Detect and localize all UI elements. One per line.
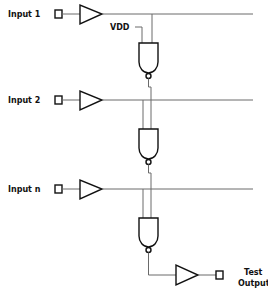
nand-gate-3 bbox=[139, 189, 176, 275]
input-row-n: Input n bbox=[8, 180, 253, 199]
input-n-buffer-icon bbox=[80, 180, 102, 199]
input-n-pad-icon bbox=[55, 185, 62, 193]
input-2-label: Input 2 bbox=[8, 96, 40, 105]
test-output-label-line2: Output bbox=[238, 279, 268, 288]
gate-2-output-wire bbox=[149, 165, 152, 219]
input-n-label: Input n bbox=[8, 185, 41, 194]
input-row-2: Input 2 bbox=[8, 91, 253, 110]
input-1-label: Input 1 bbox=[8, 10, 41, 19]
test-output: Test Output bbox=[176, 265, 268, 288]
output-buffer-icon bbox=[176, 265, 198, 285]
input-1-buffer-icon bbox=[80, 5, 102, 24]
vdd-wire bbox=[135, 27, 142, 43]
output-pad-icon bbox=[216, 271, 223, 279]
vdd-supply: VDD bbox=[110, 23, 142, 43]
input-1-pad-icon bbox=[55, 10, 62, 18]
gate-1-output-wire bbox=[149, 79, 152, 130]
gate-2-inverter-bubble-icon bbox=[146, 160, 151, 165]
nand-gate-2 bbox=[139, 100, 158, 218]
nand-tree-diagram: Input 1 VDD Input 2 Input n bbox=[0, 0, 268, 294]
test-output-label-line1: Test bbox=[244, 268, 263, 277]
gate-3-output-wire bbox=[149, 253, 177, 276]
input-2-buffer-icon bbox=[80, 91, 102, 110]
vdd-label: VDD bbox=[110, 23, 130, 32]
nand-gate-2-icon bbox=[139, 129, 158, 159]
gate-3-inverter-bubble-icon bbox=[146, 248, 151, 253]
input-row-1: Input 1 bbox=[8, 5, 253, 24]
gate-1-inverter-bubble-icon bbox=[146, 74, 151, 79]
nand-gate-3-icon bbox=[139, 218, 158, 247]
nand-gate-1-icon bbox=[139, 43, 158, 73]
input-2-pad-icon bbox=[55, 96, 62, 104]
